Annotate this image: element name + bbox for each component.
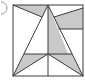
circled-label-icon [1, 2, 7, 14]
geometry-figure [0, 0, 85, 80]
